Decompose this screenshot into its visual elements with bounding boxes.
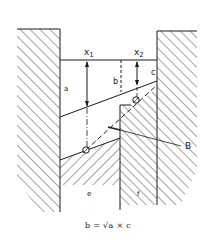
label-B: B: [185, 141, 191, 151]
x1-dimension-arrow: [85, 61, 89, 150]
label-x2: x2: [134, 47, 144, 59]
lower-point-marker: [83, 147, 89, 153]
right-wall: [157, 31, 197, 205]
upper-point-marker: [133, 97, 139, 103]
label-b: b: [113, 77, 118, 86]
formula: b = √a × c: [0, 221, 216, 230]
label-e: e: [87, 190, 91, 198]
x2-dimension-arrow: [135, 61, 139, 100]
label-c: c: [151, 68, 155, 77]
lower-fill-region: [60, 138, 120, 185]
label-a: a: [64, 85, 68, 93]
cross-section-diagram: x1 x2 a b c e f B: [0, 0, 216, 251]
label-x1: x1: [84, 47, 94, 59]
left-wall: [17, 29, 60, 212]
